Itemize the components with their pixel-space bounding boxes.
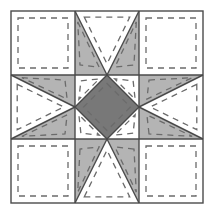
quilt-block-canvas [0,0,215,216]
patch-corner-bottom-left [11,139,75,203]
fabric-fills [11,11,203,203]
patch-corner-top-right [139,11,203,75]
quilt-block-diagram [0,0,215,216]
patch-corner-bottom-right [139,139,203,203]
patch-corner-top-left [11,11,75,75]
